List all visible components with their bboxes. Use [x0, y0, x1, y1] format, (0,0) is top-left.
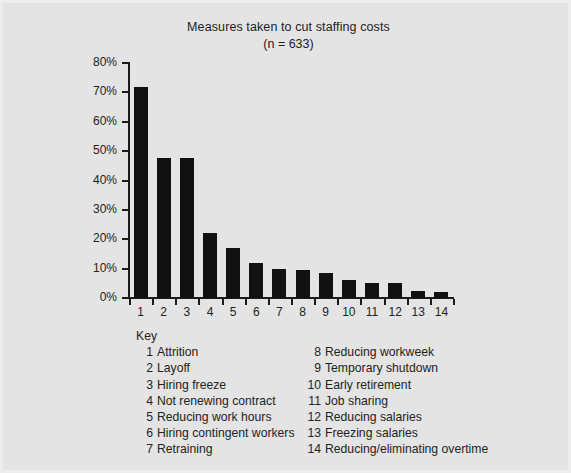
x-tick-label: 14 [426, 305, 456, 319]
bar [134, 87, 148, 299]
key-item-number: 11 [301, 393, 321, 409]
y-tick-mark [122, 238, 129, 240]
key-item: 9Temporary shutdown [301, 360, 556, 376]
key-item-label: Hiring contingent workers [157, 425, 295, 441]
bar [249, 263, 263, 298]
key-item-number: 1 [136, 344, 153, 360]
key-item: 13Freezing salaries [301, 425, 556, 441]
key-item: 10Early retirement [301, 377, 556, 393]
key-item-label: Job sharing [325, 393, 388, 409]
y-tick-label: 0% [63, 290, 117, 304]
key-item: 4Not renewing contract [136, 393, 301, 409]
key-heading: Key [136, 328, 556, 344]
y-tick-label: 20% [63, 231, 117, 245]
key-item-label: Attrition [157, 344, 198, 360]
key-item: 7Retraining [136, 441, 301, 457]
key-item-label: Layoff [157, 360, 190, 376]
y-tick-label: 10% [63, 261, 117, 275]
key-item-label: Reducing work hours [157, 409, 271, 425]
plot-wrapper: 80%70%60%50%40%30%20%10%0% 1234567891011… [3, 3, 571, 323]
key-item-label: Retraining [157, 441, 213, 457]
key-item-label: Not renewing contract [157, 393, 276, 409]
y-tick-mark [122, 91, 129, 93]
key-item-label: Reducing salaries [325, 409, 422, 425]
key-item-number: 13 [301, 425, 321, 441]
y-tick-label: 60% [63, 114, 117, 128]
y-tick-mark [122, 150, 129, 152]
key-item-number: 7 [136, 441, 153, 457]
key-item-number: 9 [301, 360, 321, 376]
key-item: 1Attrition [136, 344, 301, 360]
key-item-label: Reducing/eliminating overtime [325, 441, 488, 457]
bar [157, 158, 171, 298]
bar [434, 292, 448, 298]
bar [365, 283, 379, 298]
y-tick-mark [122, 121, 129, 123]
key-item-number: 5 [136, 409, 153, 425]
plot-area [129, 63, 453, 298]
chart-key: Key 1Attrition2Layoff3Hiring freeze4Not … [136, 328, 556, 458]
key-item: 2Layoff [136, 360, 301, 376]
y-tick-mark [122, 62, 129, 64]
bar [226, 248, 240, 298]
key-item-number: 2 [136, 360, 153, 376]
key-item-number: 10 [301, 377, 321, 393]
key-item-label: Temporary shutdown [325, 360, 438, 376]
bar [203, 233, 217, 298]
y-tick-label: 70% [63, 84, 117, 98]
key-item-number: 4 [136, 393, 153, 409]
bar [411, 291, 425, 298]
key-item: 11Job sharing [301, 393, 556, 409]
y-tick-label: 30% [63, 202, 117, 216]
key-item-label: Early retirement [325, 377, 411, 393]
bar [296, 270, 310, 298]
y-tick-label: 80% [63, 55, 117, 69]
key-item: 5Reducing work hours [136, 409, 301, 425]
key-item-number: 14 [301, 441, 321, 457]
key-item-number: 8 [301, 344, 321, 360]
key-item: 8Reducing workweek [301, 344, 556, 360]
key-item-label: Hiring freeze [157, 377, 226, 393]
key-item: 12Reducing salaries [301, 409, 556, 425]
key-item-label: Reducing workweek [325, 344, 434, 360]
bar [180, 158, 194, 298]
y-tick-mark [122, 180, 129, 182]
key-columns: 1Attrition2Layoff3Hiring freeze4Not rene… [136, 344, 556, 457]
key-item: 3Hiring freeze [136, 377, 301, 393]
y-tick-mark [122, 268, 129, 270]
key-item-number: 3 [136, 377, 153, 393]
y-tick-mark [122, 297, 129, 299]
y-tick-mark [122, 209, 129, 211]
key-item: 6Hiring contingent workers [136, 425, 301, 441]
bar [272, 269, 286, 298]
key-item-number: 6 [136, 425, 153, 441]
key-item: 14Reducing/eliminating overtime [301, 441, 556, 457]
key-item-number: 12 [301, 409, 321, 425]
bar [319, 273, 333, 298]
y-tick-label: 40% [63, 173, 117, 187]
key-column-right: 8Reducing workweek9Temporary shutdown10E… [301, 344, 556, 457]
chart-figure: Measures taken to cut staffing costs (n … [0, 0, 571, 473]
bar [388, 283, 402, 298]
x-tick-mark [453, 299, 455, 305]
y-tick-label: 50% [63, 143, 117, 157]
bar [342, 280, 356, 298]
key-item-label: Freezing salaries [325, 425, 418, 441]
key-column-left: 1Attrition2Layoff3Hiring freeze4Not rene… [136, 344, 301, 457]
